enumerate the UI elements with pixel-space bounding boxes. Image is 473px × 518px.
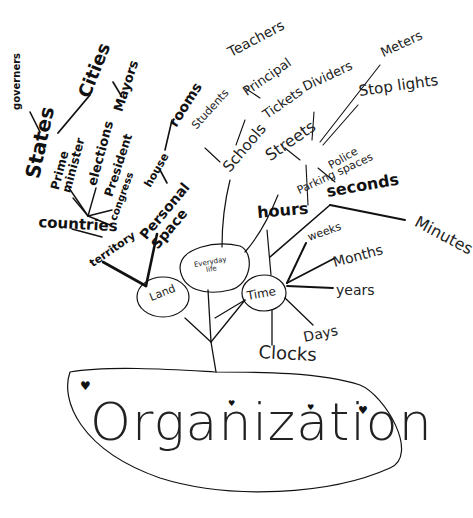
node-governers: governers xyxy=(12,53,22,110)
node-years: years xyxy=(336,283,375,297)
mind-map-canvas: Land Everyday life Time governers Cities… xyxy=(0,0,473,518)
heart-icon: ♥ xyxy=(80,380,91,392)
heart-icon: ♥ xyxy=(228,400,235,408)
node-countries: countries xyxy=(38,215,118,234)
node-hours: hours xyxy=(257,201,309,221)
heart-icon: ♥ xyxy=(358,405,368,416)
heart-icon: ♥ xyxy=(307,404,314,412)
node-clocks: Clocks xyxy=(258,343,317,364)
root-node-organization: Organization xyxy=(90,392,433,452)
